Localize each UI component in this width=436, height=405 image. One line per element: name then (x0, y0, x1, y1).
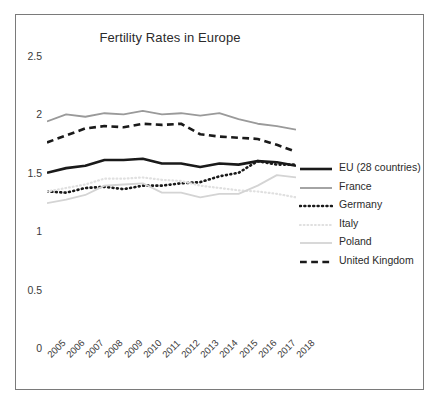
series-line (47, 175, 296, 203)
legend-label: EU (28 countries) (339, 161, 421, 173)
x-axis: 2005200620072008200920102011201220132014… (47, 346, 299, 390)
y-tick-label: 0 (36, 342, 42, 354)
legend-label: United Kingdom (339, 254, 414, 266)
legend-line-sample (299, 198, 333, 210)
legend-item[interactable]: Germany (299, 195, 427, 214)
legend-item[interactable]: Poland (299, 232, 427, 251)
legend-item[interactable]: United Kingdom (299, 251, 427, 270)
legend-line-sample (299, 161, 333, 173)
y-axis: 2.521.510.50 (14, 56, 42, 348)
legend-label: Poland (339, 235, 372, 247)
legend-line-sample (299, 180, 333, 192)
chart-figure: Fertility Rates in Europe 2.521.510.50 2… (0, 0, 436, 405)
plot-area (47, 56, 296, 348)
legend-line-sample (299, 235, 333, 247)
legend-line-sample (299, 217, 333, 229)
legend-item[interactable]: France (299, 177, 427, 196)
series-canvas (47, 56, 296, 348)
legend-label: Germany (339, 198, 382, 210)
y-tick-label: 2.5 (27, 50, 42, 62)
series-line (47, 111, 296, 130)
legend-label: Italy (339, 217, 358, 229)
legend-item[interactable]: EU (28 countries) (299, 158, 427, 177)
chart-legend: EU (28 countries)FranceGermanyItalyPolan… (299, 158, 427, 269)
legend-line-sample (299, 254, 333, 266)
legend-label: France (339, 180, 372, 192)
chart-title: Fertility Rates in Europe (40, 30, 300, 45)
series-line (47, 124, 296, 152)
y-tick-label: 1 (36, 225, 42, 237)
y-tick-label: 2 (36, 108, 42, 120)
y-tick-label: 1.5 (27, 167, 42, 179)
legend-item[interactable]: Italy (299, 214, 427, 233)
y-tick-label: 0.5 (27, 284, 42, 296)
